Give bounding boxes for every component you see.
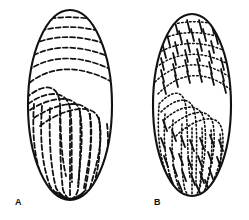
figure-a-ornamentation [20,17,112,200]
figure-plate: A B [0,0,249,220]
figure-a-group [20,10,112,200]
striae-b-longitudinal [158,106,229,198]
striae-a-knee [26,87,101,188]
figure-label-a: A [15,198,22,207]
figure-label-b: B [154,198,161,207]
specimen-illustration-a [0,0,249,220]
figure-b-group [151,14,231,198]
